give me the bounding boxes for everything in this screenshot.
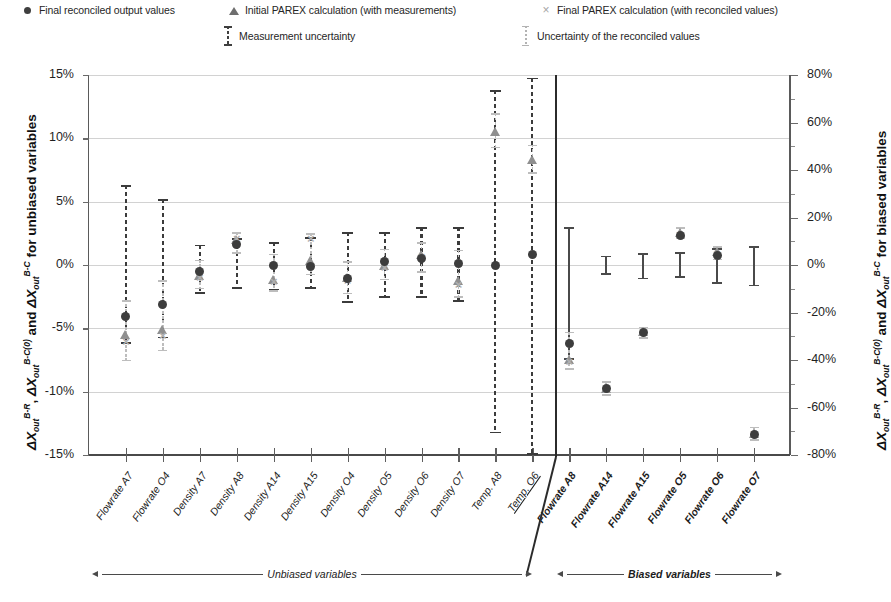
errorbar-cap: [195, 292, 206, 294]
errorbar-cap: [380, 279, 389, 281]
triangle-marker: [490, 127, 500, 136]
x-axis-tick: [200, 448, 201, 462]
legend-item-label: Final reconciled output values: [39, 4, 175, 16]
y-axis-minor-tick-right: [791, 289, 795, 290]
x-axis-tick: [385, 448, 386, 462]
x-axis-tick: [680, 448, 681, 462]
x-axis-tick: [163, 448, 164, 462]
measurement-uncertainty-bar: [531, 78, 533, 455]
annotation-line: [102, 574, 263, 575]
x-axis-tick: [717, 448, 718, 462]
left-axis-title: ΔXoutB-R, ΔXoutB-C(0) and ΔXoutB-C for u…: [22, 114, 41, 450]
legend-item-label: Initial PAREX calculation (with measurem…: [245, 4, 456, 16]
y-axis-tick-label-right: -80%: [807, 447, 836, 461]
errorbar-cap: [306, 274, 315, 276]
errorbar-cap: [417, 242, 426, 244]
y-axis-minor-tick-right: [791, 99, 795, 100]
errorbar-cap: [195, 245, 206, 247]
errorbar-cap: [601, 273, 611, 275]
errorbar-light-dotted-icon: [520, 30, 532, 42]
x-marker: ×: [121, 335, 131, 348]
y-axis-tick-label-left: -15%: [45, 447, 74, 461]
errorbar-cap: [601, 256, 611, 258]
errorbar-cap: [343, 293, 352, 295]
legend-item: ×Final PAREX calculation (with reconcile…: [540, 4, 778, 16]
y-axis-tick-label-right: 60%: [807, 115, 832, 129]
y-axis-tick-right: [791, 265, 798, 266]
annotation-line: [715, 574, 772, 575]
gridline: [89, 202, 790, 203]
x-axis-tick: [311, 448, 312, 462]
arrow-right-icon: [526, 571, 532, 577]
y-axis-minor-tick-right: [791, 146, 795, 147]
legend-item: Uncertainty of the reconciled values: [520, 30, 700, 42]
errorbar-cap: [195, 288, 204, 290]
measurement-uncertainty-bar: [679, 252, 681, 278]
unbiased-range-annotation: Unbiased variables: [92, 568, 532, 580]
errorbar-cap: [343, 261, 352, 263]
biased-label: Biased variables: [628, 568, 711, 580]
errorbar-cap: [454, 296, 463, 298]
errorbar-cap: [380, 249, 389, 251]
gridline: [89, 392, 790, 393]
errorbar-cap: [749, 246, 759, 248]
errorbar-cap: [528, 172, 537, 174]
measurement-uncertainty-bar: [605, 256, 607, 275]
errorbar-cap: [675, 276, 685, 278]
circle-marker: [121, 312, 130, 321]
measurement-uncertainty-bar: [753, 246, 755, 286]
y-axis-tick-label-left: 5%: [56, 194, 74, 208]
errorbar-cap: [158, 280, 167, 282]
errorbar-cap: [342, 301, 353, 303]
y-axis-tick-label-right: 40%: [807, 162, 832, 176]
errorbar-cap: [417, 271, 426, 273]
circle-marker: [454, 259, 463, 268]
annotation-line: [567, 574, 624, 575]
errorbar-cap: [453, 300, 464, 302]
x-axis-tick: [422, 448, 423, 462]
x-axis-tick: [754, 448, 755, 462]
x-axis-line: [89, 454, 790, 456]
errorbar-cap: [564, 227, 574, 229]
group-divider: [555, 75, 558, 457]
errorbar-cap: [638, 278, 648, 280]
y-axis-tick-label-left: -10%: [45, 384, 74, 398]
circle-marker: [269, 261, 278, 270]
errorbar-cap: [528, 145, 537, 147]
circle-marker: [491, 261, 500, 270]
circle-marker: [713, 251, 722, 260]
errorbar-cap: [269, 290, 278, 292]
x-axis-tick: [606, 448, 607, 462]
errorbar-cap: [491, 113, 500, 115]
errorbar-cap: [454, 250, 463, 252]
y-axis-tick-left: [83, 138, 89, 139]
gridline: [89, 328, 790, 329]
errorbar-cap: [121, 185, 132, 187]
errorbar-cap: [490, 90, 501, 92]
biased-range-annotation: Biased variables: [557, 568, 782, 580]
y-axis-tick-label-right: -40%: [807, 352, 836, 366]
y-axis-minor-tick-right: [791, 241, 795, 242]
arrow-right-icon: [776, 571, 782, 577]
circle-marker: [750, 430, 759, 439]
y-axis-tick-right: [791, 170, 798, 171]
y-axis-tick-label-right: -20%: [807, 305, 836, 319]
y-axis-tick-left: [83, 202, 89, 203]
errorbar-cap: [453, 227, 464, 229]
circle-marker: [232, 240, 241, 249]
errorbar-dark-dashed-icon: [222, 30, 234, 42]
legend-item: Measurement uncertainty: [222, 30, 355, 42]
circle-marker: [639, 328, 648, 337]
x-axis-tick: [126, 448, 127, 462]
y-axis-tick-label-right: 20%: [807, 210, 832, 224]
y-axis-tick-right: [791, 313, 798, 314]
y-axis-minor-tick-right: [791, 384, 795, 385]
gridline: [89, 265, 790, 266]
circle-marker: [22, 4, 34, 16]
errorbar-cap: [527, 453, 538, 455]
errorbar-cap: [122, 360, 131, 362]
errorbar-cap: [749, 285, 759, 287]
x-marker: ×: [453, 278, 463, 291]
y-axis-minor-tick-right: [791, 336, 795, 337]
errorbar-cap: [269, 242, 280, 244]
